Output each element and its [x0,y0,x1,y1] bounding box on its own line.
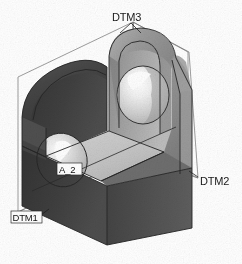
cad-viewport[interactable]: DTM3 DTM2 DTM1 A_2 [0,0,242,264]
label-a2-group[interactable]: A_2 [57,163,82,175]
label-dtm1[interactable]: DTM1 [13,212,38,223]
label-a2[interactable]: A_2 [59,164,75,175]
label-dtm3[interactable]: DTM3 [112,11,141,23]
label-dtm2[interactable]: DTM2 [200,175,229,187]
cad-model-render[interactable]: DTM3 DTM2 DTM1 A_2 [0,0,242,264]
label-dtm1-group[interactable]: DTM1 [11,211,42,223]
